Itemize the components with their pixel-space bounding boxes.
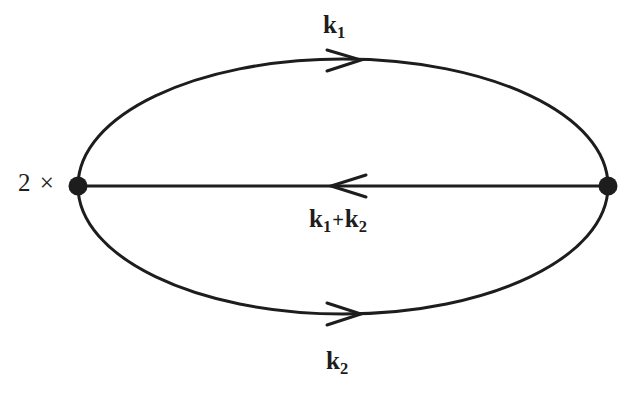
momentum-label-k1-plus-k2: k1+k2: [309, 206, 367, 231]
plus-operator: +: [331, 209, 345, 231]
momentum-label-k1: k1: [323, 12, 345, 37]
top-arc-propagator: [78, 59, 608, 186]
momentum-subscript-k1-middle: 1: [323, 217, 331, 236]
diagram-canvas: [0, 0, 637, 393]
momentum-symbol-k1-middle: k: [309, 205, 323, 232]
momentum-symbol-k2: k: [326, 347, 340, 374]
momentum-symbol-k2-middle: k: [345, 205, 359, 232]
momentum-subscript-k1: 1: [337, 23, 345, 42]
momentum-subscript-k2-middle: 2: [359, 217, 367, 236]
feynman-diagram-figure: 2 × k1 k1+k2 k2: [0, 0, 637, 393]
momentum-symbol-k1: k: [323, 11, 337, 38]
multiplier-label: 2 ×: [18, 170, 55, 195]
left-vertex-dot: [69, 177, 88, 196]
right-vertex-dot: [599, 177, 618, 196]
momentum-label-k2: k2: [326, 348, 348, 373]
momentum-subscript-k2: 2: [340, 359, 348, 378]
